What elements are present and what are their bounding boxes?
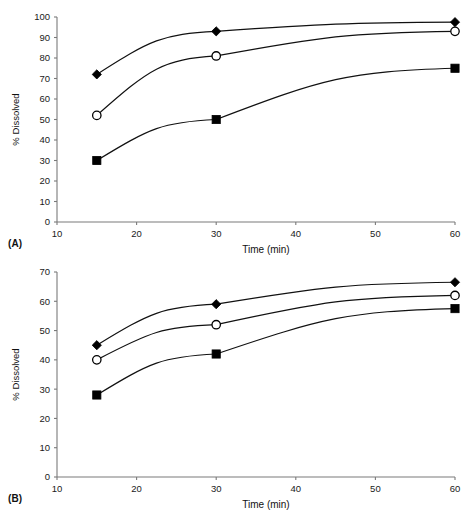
y-axis-tick-label: 90 bbox=[39, 32, 50, 43]
data-point-filled-square bbox=[212, 350, 220, 358]
y-axis-tick-label: 10 bbox=[39, 442, 50, 453]
series-line-filled-square bbox=[97, 68, 455, 160]
x-axis-tick-label: 50 bbox=[370, 228, 381, 239]
y-axis-tick-label: 70 bbox=[39, 266, 50, 277]
x-axis-tick-label: 30 bbox=[211, 228, 222, 239]
data-point-filled-diamond bbox=[450, 18, 459, 27]
y-axis-tick-label: 30 bbox=[39, 155, 50, 166]
y-axis-tick-label: 20 bbox=[39, 413, 50, 424]
data-point-filled-diamond bbox=[92, 341, 101, 350]
y-axis-tick-label: 40 bbox=[39, 134, 50, 145]
data-point-open-circle bbox=[451, 27, 459, 35]
series-line-filled-diamond bbox=[97, 22, 455, 74]
dissolution-figure: 0102030405060708090100102030405060Time (… bbox=[0, 0, 462, 510]
chart-a-plot-area: 0102030405060708090100102030405060Time (… bbox=[0, 0, 462, 255]
x-axis-tick-label: 10 bbox=[52, 483, 63, 494]
y-axis-tick-label: 0 bbox=[45, 471, 50, 482]
x-axis-tick-label: 10 bbox=[52, 228, 63, 239]
data-point-filled-diamond bbox=[92, 70, 101, 79]
data-point-open-circle bbox=[93, 111, 101, 119]
series-line-filled-square bbox=[97, 309, 455, 395]
panel-label-b: (B) bbox=[8, 493, 22, 504]
x-axis-tick-label: 20 bbox=[131, 228, 142, 239]
y-axis-tick-label: 80 bbox=[39, 52, 50, 63]
series-line-filled-diamond bbox=[97, 282, 455, 345]
y-axis-tick-label: 60 bbox=[39, 93, 50, 104]
x-axis-title: Time (min) bbox=[242, 499, 289, 510]
chart-panel-b: 010203040506070102030405060Time (min)% D… bbox=[0, 255, 462, 510]
y-axis-title: % Dissolved bbox=[10, 348, 21, 400]
y-axis-tick-label: 10 bbox=[39, 196, 50, 207]
data-point-open-circle bbox=[451, 291, 459, 299]
y-axis-tick-label: 60 bbox=[39, 296, 50, 307]
chart-b-plot-area: 010203040506070102030405060Time (min)% D… bbox=[0, 255, 462, 510]
series-line-open-circle bbox=[97, 295, 455, 359]
panel-label-a: (A) bbox=[8, 238, 22, 249]
data-point-open-circle bbox=[93, 356, 101, 364]
x-axis-tick-label: 30 bbox=[211, 483, 222, 494]
data-point-filled-diamond bbox=[212, 300, 221, 309]
data-point-filled-square bbox=[93, 156, 101, 164]
x-axis-tick-label: 50 bbox=[370, 483, 381, 494]
data-point-filled-diamond bbox=[450, 278, 459, 287]
y-axis-tick-label: 70 bbox=[39, 73, 50, 84]
data-point-filled-square bbox=[451, 305, 459, 313]
data-point-open-circle bbox=[212, 52, 220, 60]
x-axis-tick-label: 40 bbox=[291, 228, 302, 239]
x-axis-tick-label: 20 bbox=[131, 483, 142, 494]
chart-panel-a: 0102030405060708090100102030405060Time (… bbox=[0, 0, 462, 255]
data-point-filled-square bbox=[93, 391, 101, 399]
x-axis-tick-label: 60 bbox=[450, 228, 461, 239]
y-axis-tick-label: 0 bbox=[45, 216, 50, 227]
y-axis-tick-label: 30 bbox=[39, 384, 50, 395]
y-axis-tick-label: 50 bbox=[39, 325, 50, 336]
y-axis-tick-label: 50 bbox=[39, 114, 50, 125]
y-axis-tick-label: 40 bbox=[39, 354, 50, 365]
data-point-filled-square bbox=[212, 115, 220, 123]
y-axis-title: % Dissolved bbox=[10, 93, 21, 145]
y-axis-tick-label: 100 bbox=[34, 11, 50, 22]
y-axis-tick-label: 20 bbox=[39, 175, 50, 186]
data-point-filled-square bbox=[451, 64, 459, 72]
data-point-open-circle bbox=[212, 321, 220, 329]
x-axis-title: Time (min) bbox=[242, 244, 289, 255]
x-axis-tick-label: 60 bbox=[450, 483, 461, 494]
data-point-filled-diamond bbox=[212, 27, 221, 36]
x-axis-tick-label: 40 bbox=[291, 483, 302, 494]
